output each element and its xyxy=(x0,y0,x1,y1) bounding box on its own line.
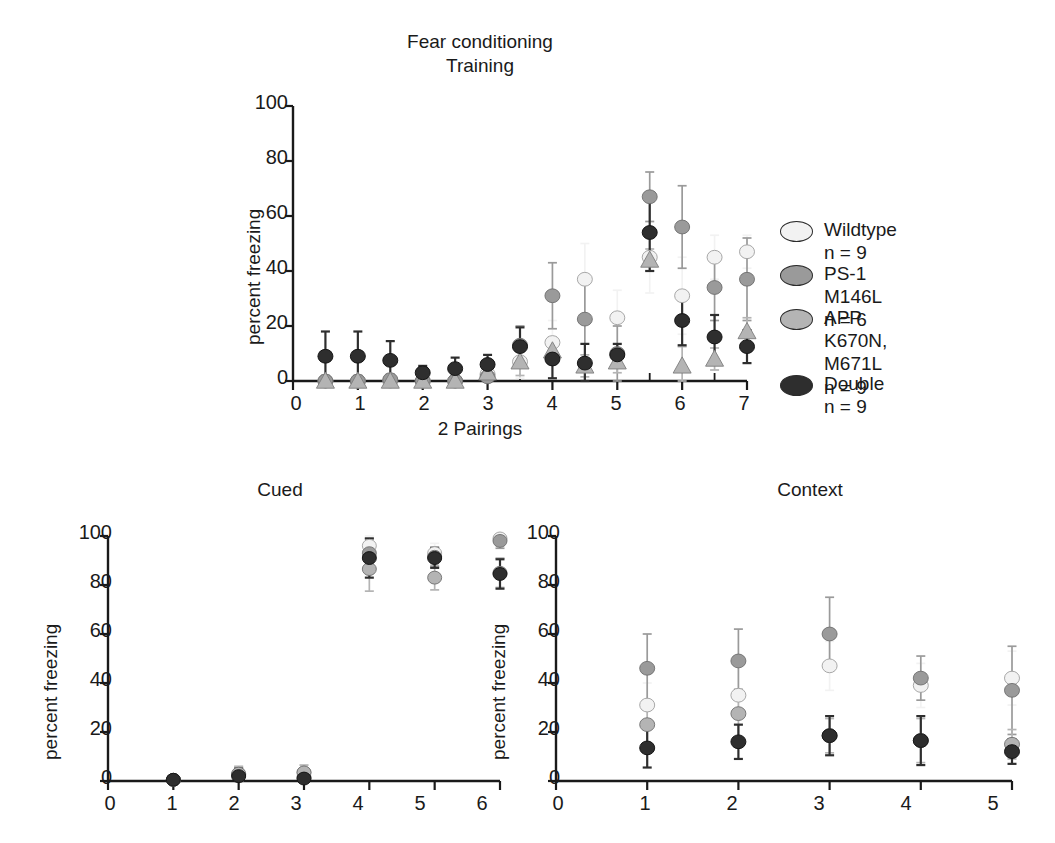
data-point xyxy=(640,661,655,675)
data-point xyxy=(913,734,928,748)
figure-canvas: Fear conditioning Training percent freez… xyxy=(0,0,1055,843)
context-plot-area xyxy=(0,0,1055,843)
data-point xyxy=(822,627,837,641)
data-point xyxy=(1005,671,1020,685)
data-point xyxy=(640,698,655,712)
data-point xyxy=(1005,745,1020,759)
data-point xyxy=(731,735,746,749)
data-point xyxy=(822,729,837,743)
data-point xyxy=(1005,683,1020,697)
data-point xyxy=(731,707,746,721)
data-point xyxy=(640,718,655,732)
data-point xyxy=(640,741,655,755)
data-point xyxy=(731,654,746,668)
data-point xyxy=(731,688,746,702)
data-point xyxy=(822,659,837,673)
data-point xyxy=(913,671,928,685)
